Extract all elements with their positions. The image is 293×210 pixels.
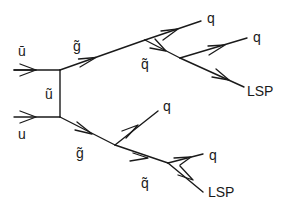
feynman-diagram: ū u ũ g̃ q q̃ q LSP g̃ [0,0,293,210]
upper-quark-1-line [145,21,201,40]
label-lower-quark-1: q [163,98,171,114]
label-upper-lsp: LSP [247,83,273,99]
label-u-squark: ũ [45,86,53,102]
label-lower-quark-2: q [209,147,217,163]
label-upper-quark-1: q [207,10,215,26]
lower-gluino-line [60,117,115,145]
arrow-icon [161,29,178,40]
lower-lsp-line [168,163,203,192]
incoming-u-line [14,111,60,123]
label-upper-gluino: g̃ [73,38,81,54]
lower-quark-2-line [168,154,203,165]
upper-lsp-line [180,58,244,87]
label-upper-squark: q̃ [141,56,149,72]
label-u: u [18,126,26,142]
lower-squark-line [115,145,168,163]
lower-quark-1-line [115,111,158,145]
upper-squark-line [145,39,180,58]
arrow-icon [75,122,92,134]
arrow-icon [130,153,148,161]
label-lower-lsp: LSP [208,184,234,200]
incoming-ubar-line [14,64,60,76]
upper-quark-2-line [180,38,247,58]
label-upper-quark-2: q [253,29,261,45]
arrow-icon [150,39,166,51]
label-lower-squark: q̃ [141,175,149,191]
arrow-icon [212,69,229,80]
label-ubar: ū [18,43,26,59]
label-lower-gluino: g̃ [76,145,84,161]
arrow-icon [122,125,138,138]
